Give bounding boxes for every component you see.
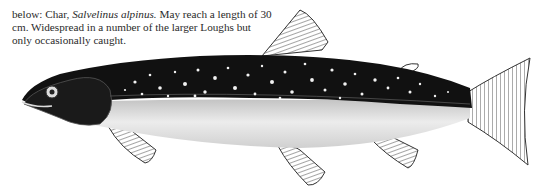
pelvic-fin — [278, 146, 325, 186]
tail-fin — [468, 58, 530, 165]
char-fish-illustration — [0, 0, 537, 187]
dorsal-fin — [262, 10, 328, 56]
